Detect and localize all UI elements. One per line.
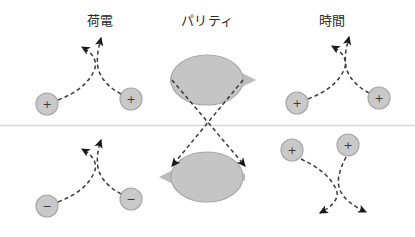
panel-charge-top: + +	[36, 38, 142, 115]
particle-sign: +	[343, 139, 352, 152]
trajectory-charge-bottom-right	[97, 140, 121, 194]
trajectory-charge-top-left	[58, 47, 96, 100]
panel-parity-top	[170, 55, 256, 105]
particle-sign: +	[292, 97, 301, 110]
trajectory-charge-top-right	[97, 38, 121, 94]
particle-time-top-right: +	[368, 87, 390, 109]
particle-charge-top-right: +	[120, 88, 142, 110]
particle-sign: −	[126, 193, 135, 206]
particle-sign: +	[42, 98, 51, 111]
particle-time-bottom-left: +	[281, 139, 303, 161]
trajectory-charge-bottom-left	[58, 149, 96, 202]
particle-sign: +	[374, 92, 383, 105]
cpt-symmetry-figure: 荷電 パリティ 時間 + +	[0, 0, 415, 237]
panel-parity-bottom	[159, 152, 245, 202]
parity-ellipse-top	[171, 55, 243, 105]
parity-ellipse-bottom	[171, 152, 243, 202]
trajectory-time-top-left	[308, 46, 346, 99]
particle-time-bottom-right: +	[337, 134, 359, 156]
trajectory-time-bottom-right	[338, 157, 366, 212]
particle-sign: −	[42, 200, 51, 213]
particle-sign: +	[287, 144, 296, 157]
panel-time-top: + +	[286, 37, 390, 114]
panel-time-bottom: + +	[281, 134, 366, 213]
particle-sign: +	[126, 93, 135, 106]
particle-charge-bottom-right: −	[120, 188, 142, 210]
particle-charge-bottom-left: −	[36, 195, 58, 217]
particle-charge-top-left: +	[36, 93, 58, 115]
figure-canvas: + + − −	[0, 0, 415, 237]
trajectory-time-bottom-left	[301, 159, 337, 213]
panel-charge-bottom: − −	[36, 140, 142, 217]
particle-time-top-left: +	[286, 92, 308, 114]
trajectory-time-top-right	[345, 37, 369, 93]
